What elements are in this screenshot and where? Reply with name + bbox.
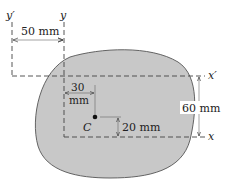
centroid-label: C bbox=[83, 121, 92, 134]
dim-20-label: 20 mm bbox=[122, 121, 161, 134]
y-label: y bbox=[59, 9, 67, 22]
centroid-dot bbox=[93, 115, 98, 120]
x-label: x bbox=[208, 130, 215, 143]
y-prime-label: y′ bbox=[5, 9, 15, 22]
area-diagram: y′ y x′ x 50 mm 30 mm C 20 mm 60 mm bbox=[0, 0, 228, 188]
dim-60-label: 60 mm bbox=[182, 102, 221, 115]
shaded-area bbox=[35, 50, 194, 178]
dim-30-label-line2: mm bbox=[69, 94, 89, 106]
dim-30-label-line1: 30 bbox=[71, 81, 84, 93]
dim-50-label: 50 mm bbox=[21, 25, 60, 38]
x-prime-label: x′ bbox=[208, 69, 217, 82]
